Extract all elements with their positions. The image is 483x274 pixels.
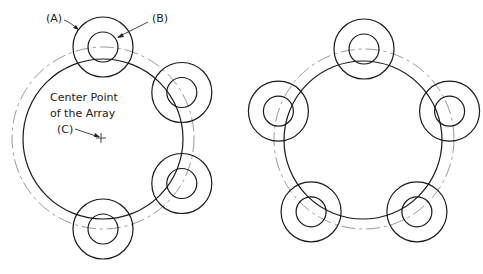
label-a: (A) bbox=[46, 12, 62, 25]
right-array bbox=[248, 19, 479, 242]
label-center-line2: of the Array bbox=[50, 107, 116, 120]
left-array-item-outer-circle bbox=[152, 154, 212, 214]
left-array-item bbox=[152, 63, 212, 123]
left-array bbox=[12, 17, 212, 259]
label-b: (B) bbox=[152, 12, 168, 25]
arrowhead-c bbox=[94, 133, 100, 137]
left-path-circle bbox=[23, 59, 183, 219]
right-path-circle bbox=[284, 61, 442, 219]
left-array-item-outer-circle bbox=[152, 63, 212, 123]
array-diagram: (A) (B) Center Point of the Array (C) bbox=[0, 0, 483, 274]
right-array-item bbox=[281, 182, 341, 242]
right-array-item-inner-circle bbox=[296, 197, 326, 227]
label-c: (C) bbox=[57, 123, 73, 136]
label-center-line1: Center Point bbox=[50, 91, 119, 104]
left-array-item-inner-circle bbox=[167, 169, 197, 199]
right-array-item-inner-circle bbox=[349, 34, 379, 64]
left-array-item bbox=[73, 199, 133, 259]
arrowhead-b bbox=[117, 33, 124, 38]
right-center-line-circle bbox=[274, 49, 454, 229]
right-array-item-outer-circle bbox=[281, 182, 341, 242]
left-array-item-outer-circle bbox=[73, 199, 133, 259]
left-array-item-inner-circle bbox=[167, 78, 197, 108]
right-array-item-outer-circle bbox=[334, 19, 394, 79]
right-array-item bbox=[334, 19, 394, 79]
left-array-item bbox=[152, 154, 212, 214]
